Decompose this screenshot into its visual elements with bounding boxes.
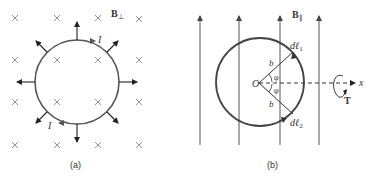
field-label-parallel: B∥ xyxy=(292,9,303,22)
origin-label: O xyxy=(252,78,259,89)
torque-curl-icon xyxy=(334,75,345,97)
torque-label: T xyxy=(344,95,351,106)
angle-label-2: φ xyxy=(274,86,279,95)
radius-label-2: b xyxy=(269,99,274,109)
panel-a: I I B⊥ (a) xyxy=(12,8,142,170)
current-loop-a xyxy=(35,40,119,124)
dl2-label: dℓ2 xyxy=(290,117,303,130)
radial-force-arrows xyxy=(17,22,137,142)
angle-label-1: φ xyxy=(274,73,279,82)
angle-arc-1 xyxy=(269,74,272,82)
caption-a: (a) xyxy=(70,160,81,170)
angle-arc-2 xyxy=(269,84,272,92)
caption-b: (b) xyxy=(267,160,278,170)
field-label-perp: B⊥ xyxy=(111,8,124,21)
figure-canvas: I I B⊥ (a) O b b xyxy=(0,0,375,178)
x-axis-label: x xyxy=(358,77,364,88)
current-label-top: I xyxy=(97,34,102,45)
panel-b: O b b φ φ B∥ dℓ1 dℓ2 x T (b) xyxy=(200,9,364,170)
current-label-bottom: I xyxy=(47,120,52,131)
radius-label-1: b xyxy=(269,58,274,68)
